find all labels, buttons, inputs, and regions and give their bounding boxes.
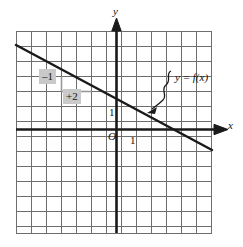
x-tick-label-one: 1 bbox=[130, 135, 136, 146]
y-tick-label-one: 1 bbox=[109, 107, 115, 118]
y-axis-arrowhead bbox=[112, 18, 121, 31]
slope-rise-label: –1 bbox=[39, 69, 56, 84]
slope-run-label: +2 bbox=[63, 89, 81, 104]
x-axis-arrowhead bbox=[214, 124, 228, 134]
origin-label: O bbox=[108, 131, 116, 142]
y-axis-label: y bbox=[113, 6, 118, 17]
function-label: y = f(x) bbox=[175, 72, 208, 83]
coordinate-plot bbox=[0, 0, 243, 247]
x-axis-label: x bbox=[228, 120, 233, 131]
graph-figure: y x O 1 1 y = f(x) –1 +2 bbox=[0, 0, 243, 247]
